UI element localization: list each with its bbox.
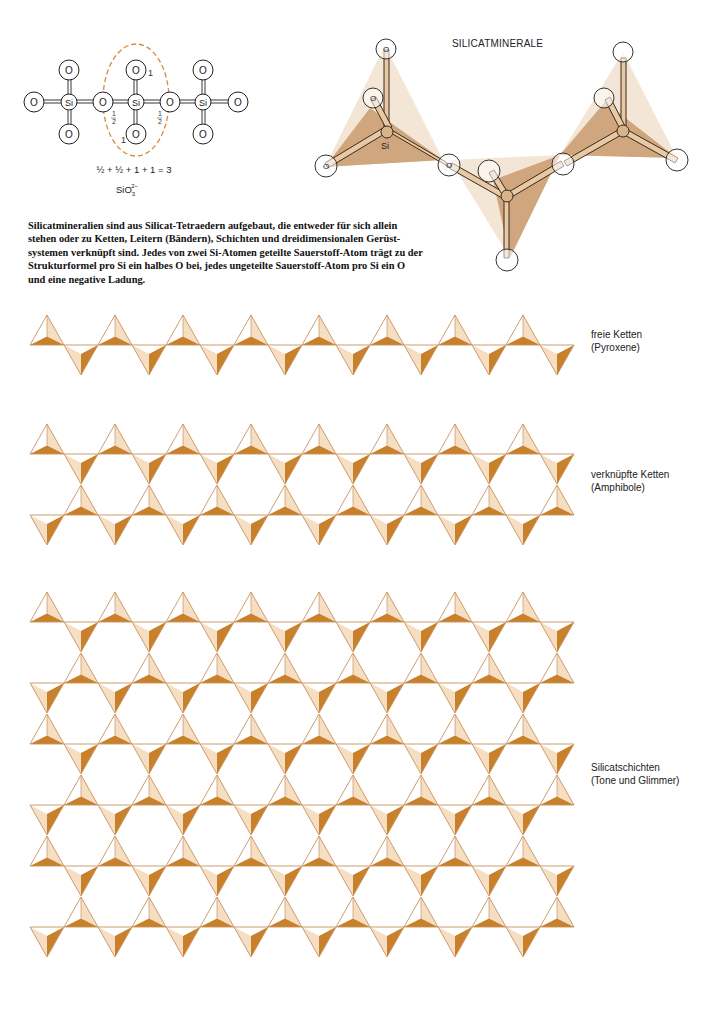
tetrahedron-up: [438, 315, 472, 345]
tetrahedron-up: [30, 836, 64, 866]
tetrahedron-up: [404, 775, 438, 805]
tetrahedron-down: [336, 744, 370, 774]
tetrahedron-down: [472, 454, 506, 484]
tetrahedron-down: [234, 927, 268, 957]
tetrahedron-up: [98, 424, 132, 454]
label-double-chain: verknüpfte Ketten (Amphibole): [591, 468, 669, 494]
tetrahedron-down: [404, 866, 438, 896]
tetrahedron-up: [30, 315, 64, 345]
tetrahedron-up: [64, 897, 98, 927]
tetrahedron-up: [132, 775, 166, 805]
tetrahedron-up: [302, 592, 336, 622]
tetrahedron-down: [30, 805, 64, 835]
tetrahedron-up: [438, 836, 472, 866]
tetrahedron-down: [336, 345, 370, 375]
tetrahedron-up: [370, 836, 404, 866]
tetrahedron-up: [336, 897, 370, 927]
tetrahedron-down: [540, 866, 574, 896]
tetrahedron-down: [268, 866, 302, 896]
tetrahedron-up: [30, 424, 64, 454]
tetrahedron-down: [540, 345, 574, 375]
tetrahedron-down: [268, 622, 302, 652]
tetrahedron-down: [98, 683, 132, 713]
tetrahedron-up: [268, 897, 302, 927]
tetrahedron-up: [506, 315, 540, 345]
tetrahedron-up: [200, 485, 234, 515]
label-line: (Pyroxene): [591, 341, 642, 354]
tetrahedron-down: [336, 866, 370, 896]
tetrahedron-down: [268, 744, 302, 774]
tetrahedron-down: [404, 454, 438, 484]
tetrahedron-down: [438, 683, 472, 713]
tetrahedron-down: [506, 515, 540, 545]
tetrahedron-up: [370, 315, 404, 345]
tetrahedron-down: [98, 805, 132, 835]
tetrahedron-down: [540, 622, 574, 652]
tetrahedron-up: [336, 775, 370, 805]
tetrahedron-down: [30, 515, 64, 545]
tetrahedron-up: [30, 592, 64, 622]
tetrahedron-down: [336, 454, 370, 484]
label-line: Silicatschichten: [591, 761, 679, 774]
label-single-chain: freie Ketten (Pyroxene): [591, 328, 642, 354]
tetrahedron-up: [506, 836, 540, 866]
tetrahedron-down: [370, 515, 404, 545]
tetrahedron-down: [234, 683, 268, 713]
tetrahedron-down: [98, 927, 132, 957]
tetrahedron-up: [166, 424, 200, 454]
tetrahedron-up: [370, 714, 404, 744]
tetrahedron-down: [234, 515, 268, 545]
tetrahedron-down: [200, 744, 234, 774]
tetrahedron-up: [438, 424, 472, 454]
tetrahedron-up: [200, 653, 234, 683]
tetrahedron-up: [234, 592, 268, 622]
tetrahedron-down: [540, 744, 574, 774]
tetrahedron-down: [166, 805, 200, 835]
label-line: (Amphibole): [591, 481, 669, 494]
tetrahedron-up: [268, 485, 302, 515]
tetrahedron-up: [506, 424, 540, 454]
tetrahedron-up: [64, 653, 98, 683]
tetrahedron-up: [234, 836, 268, 866]
tetrahedron-up: [336, 653, 370, 683]
tetrahedron-up: [438, 592, 472, 622]
tetrahedron-up: [132, 485, 166, 515]
tetrahedron-down: [64, 866, 98, 896]
tetrahedron-down: [370, 805, 404, 835]
tetrahedron-down: [30, 927, 64, 957]
tetrahedron-down: [166, 515, 200, 545]
tetrahedron-up: [64, 485, 98, 515]
tetrahedron-up: [540, 485, 574, 515]
tetrahedron-up: [472, 897, 506, 927]
tetrahedron-up: [302, 836, 336, 866]
tetrahedron-down: [404, 744, 438, 774]
tetrahedron-up: [234, 714, 268, 744]
tetrahedron-up: [166, 592, 200, 622]
label-sheet: Silicatschichten (Tone und Glimmer): [591, 761, 679, 787]
tetrahedron-down: [200, 622, 234, 652]
tetrahedron-up: [64, 775, 98, 805]
tetrahedron-up: [98, 315, 132, 345]
tetrahedron-down: [302, 927, 336, 957]
tetrahedron-up: [234, 315, 268, 345]
tetrahedron-down: [302, 683, 336, 713]
tetrahedron-down: [370, 927, 404, 957]
tetrahedron-down: [64, 744, 98, 774]
tetrahedron-down: [234, 805, 268, 835]
tetrahedron-down: [30, 683, 64, 713]
tetrahedron-up: [98, 592, 132, 622]
tetrahedron-up: [370, 592, 404, 622]
tetrahedron-down: [302, 805, 336, 835]
tetrahedron-up: [472, 653, 506, 683]
tetrahedron-up: [200, 897, 234, 927]
tetrahedron-down: [268, 454, 302, 484]
tetrahedron-up: [370, 424, 404, 454]
tetrahedra-patterns: [0, 0, 726, 1020]
tetrahedron-down: [506, 683, 540, 713]
tetrahedron-down: [132, 454, 166, 484]
label-line: verknüpfte Ketten: [591, 468, 669, 481]
tetrahedron-up: [404, 897, 438, 927]
tetrahedron-down: [200, 345, 234, 375]
tetrahedron-up: [166, 315, 200, 345]
tetrahedron-up: [166, 714, 200, 744]
